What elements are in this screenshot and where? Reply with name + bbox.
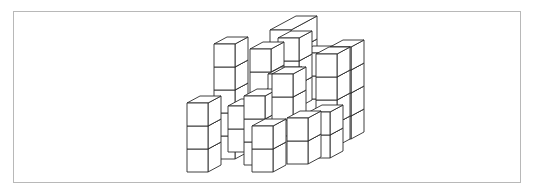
cube-front-face bbox=[214, 44, 235, 67]
cube-stack bbox=[252, 119, 286, 172]
cube-front-face bbox=[272, 74, 293, 97]
cube-stack bbox=[287, 111, 321, 164]
cube-front-face bbox=[187, 126, 208, 149]
cube-front-face bbox=[187, 103, 208, 126]
cube-front-face bbox=[287, 118, 308, 141]
cube-front-face bbox=[316, 77, 337, 100]
cube-front-face bbox=[252, 149, 273, 172]
cube-front-face bbox=[214, 67, 235, 90]
cube-stack bbox=[187, 96, 221, 172]
cube-front-face bbox=[250, 49, 271, 72]
cube-front-face bbox=[187, 149, 208, 172]
cube-front-face bbox=[244, 96, 265, 119]
cube-front-face bbox=[252, 126, 273, 149]
cube-front-face bbox=[316, 54, 337, 77]
cube-arrangement-diagram bbox=[0, 0, 536, 194]
cube-front-face bbox=[287, 141, 308, 164]
